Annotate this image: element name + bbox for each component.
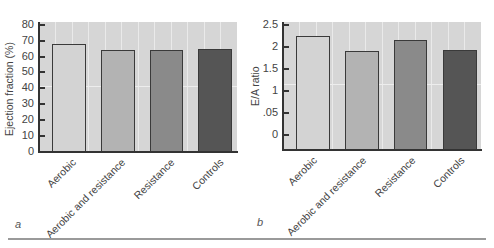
bar-resistance xyxy=(394,40,427,149)
x-category-label: Controls xyxy=(189,156,225,192)
plot-area-b xyxy=(283,22,481,149)
divider-rule xyxy=(8,238,486,240)
x-category-label: Aerobic xyxy=(286,154,320,188)
x-axis-a xyxy=(38,151,238,153)
y-axis-title-b: E/A ratio xyxy=(249,66,261,106)
panel-label-a: a xyxy=(15,218,21,230)
chart-panel-b: 2.5 2 1.5 1 .05 0 E/A ratio Aerobic Aero… xyxy=(247,0,494,230)
y-tick-label: 2.5 xyxy=(254,18,278,30)
y-tick-label: 2 xyxy=(254,40,278,52)
bar-resistance xyxy=(150,50,183,151)
bar-aerobic-and-resistance xyxy=(101,50,135,151)
bar-controls xyxy=(198,49,232,151)
y-tick-label: .05 xyxy=(254,106,278,118)
y-tick-label: 0 xyxy=(254,128,278,140)
panel-label-b: b xyxy=(257,216,263,228)
x-category-label: Resistance xyxy=(131,156,176,201)
plot-area-a xyxy=(39,22,237,151)
chart-panel-a: 80 70 60 50 40 30 20 10 0 Ejection fract… xyxy=(0,0,247,230)
bar-aerobic xyxy=(296,36,330,149)
y-axis-b xyxy=(282,22,284,151)
x-category-label: Controls xyxy=(430,154,466,190)
y-axis-title-a: Ejection fraction (%) xyxy=(3,42,15,136)
y-tick-label: 80 xyxy=(10,18,34,30)
x-category-label: Aerobic xyxy=(45,156,79,190)
bar-aerobic xyxy=(52,44,86,151)
x-category-label: Resistance xyxy=(372,154,417,199)
bar-aerobic-and-resistance xyxy=(345,51,379,149)
y-tick-label: 0 xyxy=(10,145,34,157)
x-axis-b xyxy=(282,149,482,151)
bar-controls xyxy=(443,50,477,149)
